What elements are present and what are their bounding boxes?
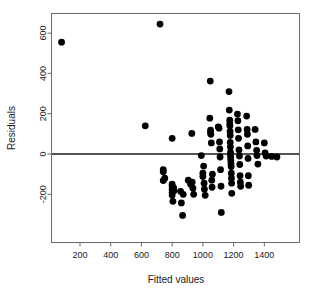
y-tick-label: -200 (38, 185, 48, 203)
x-tick-label: 400 (103, 250, 118, 260)
data-point (142, 122, 149, 129)
data-point (226, 88, 233, 95)
data-point (245, 172, 252, 179)
data-points-group (58, 21, 280, 219)
x-axis-title: Fitted values (148, 274, 205, 285)
data-point (235, 126, 242, 133)
data-point (252, 139, 259, 146)
data-point (160, 166, 167, 173)
data-point (218, 183, 225, 190)
data-point (58, 39, 65, 46)
data-point (235, 117, 242, 124)
data-point (199, 173, 206, 180)
data-point (254, 161, 261, 168)
residual-plot-container: 200400600800100012001400 -2000200400600 … (0, 0, 316, 294)
data-point (206, 115, 213, 122)
data-point (190, 191, 197, 198)
data-point (208, 177, 215, 184)
y-axis-title: Residuals (6, 106, 17, 150)
data-point (226, 107, 233, 114)
data-point (209, 184, 216, 191)
data-point (217, 154, 224, 161)
data-point (169, 135, 176, 142)
data-point (243, 113, 250, 120)
data-point (261, 140, 268, 147)
data-point (245, 155, 252, 162)
data-point (189, 179, 196, 186)
data-point (244, 143, 251, 150)
y-tick-label: 0 (38, 151, 48, 156)
data-point (228, 190, 235, 197)
data-point (201, 180, 208, 187)
x-tick-label: 1200 (224, 250, 244, 260)
data-point (157, 21, 164, 28)
data-point (274, 154, 281, 161)
data-point (244, 131, 251, 138)
data-point (227, 132, 234, 139)
data-point (235, 135, 242, 142)
data-point (254, 152, 261, 159)
x-axis-ticks: 200400600800100012001400 (72, 243, 274, 260)
y-axis-ticks: -2000200400600 (38, 26, 52, 204)
data-point (179, 212, 186, 219)
data-point (202, 192, 209, 199)
x-tick-label: 600 (134, 250, 149, 260)
data-point (236, 161, 243, 168)
x-tick-label: 200 (72, 250, 87, 260)
data-point (252, 126, 259, 133)
plot-frame (52, 14, 300, 243)
data-point (216, 146, 223, 153)
data-point (189, 185, 196, 192)
data-point (178, 200, 185, 207)
data-point (245, 182, 252, 189)
data-point (216, 139, 223, 146)
data-point (200, 163, 207, 170)
data-point (180, 191, 187, 198)
data-point (171, 187, 178, 194)
data-point (236, 153, 243, 160)
y-tick-label: 600 (38, 26, 48, 41)
x-tick-label: 1000 (193, 250, 213, 260)
data-point (170, 198, 177, 205)
data-point (228, 163, 235, 170)
data-point (209, 171, 216, 178)
data-point (236, 147, 243, 154)
scatter-plot-svg: 200400600800100012001400 -2000200400600 … (0, 0, 316, 294)
data-point (188, 130, 195, 137)
data-point (208, 140, 215, 147)
data-point (161, 175, 168, 182)
data-point (218, 209, 225, 216)
y-tick-label: 200 (38, 106, 48, 121)
data-point (234, 111, 241, 118)
x-tick-label: 1400 (254, 250, 274, 260)
data-point (237, 183, 244, 190)
data-point (201, 186, 208, 193)
data-point (207, 131, 214, 138)
data-point (198, 152, 205, 159)
x-tick-label: 800 (165, 250, 180, 260)
data-point (237, 172, 244, 179)
data-point (216, 125, 223, 132)
data-point (217, 166, 224, 173)
data-point (207, 78, 214, 85)
y-tick-label: 400 (38, 66, 48, 81)
data-point (228, 180, 235, 187)
